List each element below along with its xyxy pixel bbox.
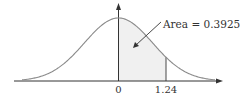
x-tick-label-0: 0 xyxy=(115,84,121,95)
normal-curve-diagram: Area = 0.3925 0 1.24 xyxy=(0,0,240,99)
area-annotation: Area = 0.3925 xyxy=(162,18,240,30)
x-tick-label-1-24: 1.24 xyxy=(155,84,177,95)
x-axis-arrowhead xyxy=(216,79,223,84)
y-axis-arrowhead xyxy=(116,3,121,10)
